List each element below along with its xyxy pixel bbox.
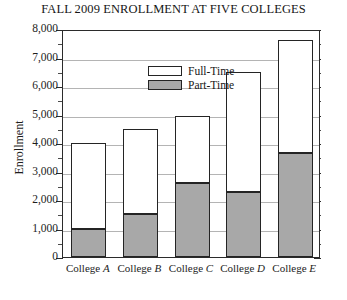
x-tick-label-letter: E — [309, 262, 316, 274]
bar-segment-part-time — [226, 192, 261, 258]
legend-item-full-time: Full-Time — [148, 65, 252, 77]
legend-swatch-full-time-icon — [148, 66, 182, 76]
bar-group — [175, 29, 210, 257]
y-tick-label: 6,000 — [6, 79, 58, 91]
chart-title: FALL 2009 ENROLLMENT AT FIVE COLLEGES — [0, 2, 347, 17]
bar-segment-full-time — [123, 129, 158, 215]
y-tick-label: 2,000 — [6, 193, 58, 205]
legend-swatch-part-time-icon — [148, 80, 182, 90]
y-tick-label: 5,000 — [6, 108, 58, 120]
x-tick-label-prefix: College — [118, 262, 155, 274]
bar-group — [71, 29, 106, 257]
axis-tick — [314, 258, 321, 259]
y-tick-label: 1,000 — [6, 222, 58, 234]
bar-segment-part-time — [71, 229, 106, 258]
bar-segment-full-time — [278, 40, 313, 153]
y-tick-label: 0 — [6, 250, 58, 262]
legend-item-part-time: Part-Time — [148, 79, 252, 91]
x-tick-label-prefix: College — [66, 262, 103, 274]
enrollment-bar-chart: FALL 2009 ENROLLMENT AT FIVE COLLEGES En… — [0, 0, 347, 300]
legend: Full-Time Part-Time — [148, 65, 252, 93]
x-tick-label-prefix: College — [169, 262, 206, 274]
bar-segment-full-time — [175, 116, 210, 183]
bar-segment-part-time — [175, 183, 210, 257]
y-tick-label: 3,000 — [6, 165, 58, 177]
legend-label-full-time: Full-Time — [188, 65, 234, 77]
y-tick-label: 7,000 — [6, 51, 58, 63]
bar-segment-part-time — [123, 214, 158, 257]
bar-group — [226, 29, 261, 257]
x-tick-label-prefix: College — [272, 262, 309, 274]
x-tick-label-prefix: College — [220, 262, 257, 274]
x-tick-label: College E — [264, 262, 324, 274]
bar-segment-part-time — [278, 153, 313, 257]
bar-group — [123, 29, 158, 257]
legend-label-part-time: Part-Time — [188, 79, 234, 91]
y-tick-label: 8,000 — [6, 22, 58, 34]
bar-group — [278, 29, 313, 257]
plot-area: Full-Time Part-Time — [62, 30, 320, 258]
bar-segment-full-time — [71, 143, 106, 229]
y-tick-label: 4,000 — [6, 136, 58, 148]
